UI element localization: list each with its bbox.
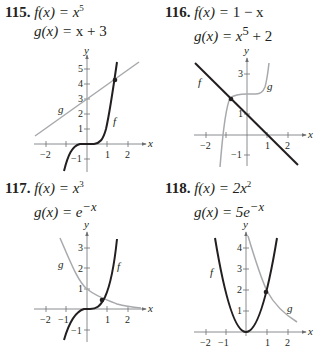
svg-text:−1: −1 <box>231 149 242 160</box>
svg-text:f: f <box>117 260 122 272</box>
svg-text:2: 2 <box>237 284 242 295</box>
tick-labels: −212 −112 345 x y <box>40 44 153 164</box>
graph-118: −2−112 1234 x y f g <box>160 176 319 352</box>
svg-text:g: g <box>58 258 64 270</box>
problem-117: 117. f(x) = x3 g(x) = e−x −2−112 −1123 x… <box>0 176 160 352</box>
problem-118: 118. f(x) = 2x2 g(x) = 5e−x −2−112 1234 … <box>160 176 319 352</box>
svg-text:3: 3 <box>237 263 242 274</box>
svg-text:2: 2 <box>285 140 290 151</box>
svg-text:1: 1 <box>105 314 110 325</box>
svg-text:y: y <box>243 44 249 56</box>
svg-text:1: 1 <box>265 140 270 151</box>
svg-text:f: f <box>198 76 203 88</box>
intersection-point <box>100 298 105 303</box>
svg-text:2: 2 <box>125 314 130 325</box>
problem-116: 116. f(x) = 1 − x g(x) = x5 + 2 −212 −11… <box>160 0 319 176</box>
svg-text:f: f <box>113 115 118 127</box>
graph-115: −212 −112 345 x y g f <box>0 0 160 176</box>
svg-text:1: 1 <box>105 149 110 160</box>
svg-text:−2: −2 <box>40 314 51 325</box>
svg-text:y: y <box>83 218 89 230</box>
svg-text:4: 4 <box>78 78 83 89</box>
tick-labels: −212 −113 x y <box>200 44 313 160</box>
svg-text:2: 2 <box>78 108 83 119</box>
svg-text:−1: −1 <box>218 337 229 348</box>
graph-117: −2−112 −1123 x y g f <box>0 176 160 352</box>
svg-text:f: f <box>210 266 215 278</box>
g-curve <box>220 63 269 167</box>
svg-text:−2: −2 <box>40 149 51 160</box>
svg-text:g: g <box>287 302 293 314</box>
svg-text:g: g <box>267 80 273 92</box>
svg-text:x: x <box>147 137 153 149</box>
svg-text:−1: −1 <box>71 153 82 164</box>
svg-text:4: 4 <box>237 242 242 253</box>
svg-text:2: 2 <box>78 263 83 274</box>
svg-text:3: 3 <box>238 68 243 79</box>
svg-text:1: 1 <box>265 337 270 348</box>
svg-text:−2: −2 <box>200 337 211 348</box>
axes <box>194 232 306 336</box>
svg-text:5: 5 <box>78 63 83 74</box>
svg-text:2: 2 <box>125 149 130 160</box>
svg-text:y: y <box>242 218 248 230</box>
svg-text:g: g <box>58 103 64 115</box>
svg-text:x: x <box>147 302 153 314</box>
graph-116: −212 −113 x y f g <box>160 0 319 176</box>
intersection-point <box>229 97 234 102</box>
svg-text:y: y <box>83 44 89 56</box>
svg-text:2: 2 <box>285 337 290 348</box>
svg-text:−1: −1 <box>71 325 82 336</box>
svg-text:1: 1 <box>78 123 83 134</box>
problem-115: 115. f(x) = x5 g(x) = x + 3 −212 −112 34… <box>0 0 160 176</box>
svg-text:3: 3 <box>78 242 83 253</box>
axes <box>34 232 146 342</box>
tick-labels: −2−112 1234 x y <box>200 218 313 348</box>
svg-text:−2: −2 <box>200 140 211 151</box>
svg-text:1: 1 <box>237 305 242 316</box>
g-curve <box>60 238 141 308</box>
intersection-point <box>264 290 269 295</box>
svg-text:x: x <box>307 128 313 140</box>
tick-labels: −2−112 −1123 x y <box>40 218 153 336</box>
svg-text:−1: −1 <box>58 314 69 325</box>
svg-text:x: x <box>307 325 313 337</box>
intersection-point <box>113 78 118 83</box>
